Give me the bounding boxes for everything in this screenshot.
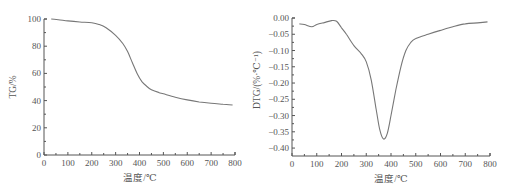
dtg-y-tick-label: −0.20 (268, 78, 289, 88)
tg-x-tick-label: 800 (228, 158, 242, 168)
tg-x-tick-label: 0 (42, 158, 47, 168)
dtg-y-tick-label: −0.15 (268, 62, 289, 72)
dtg-x-ticks: 0100200300400500600700800 (290, 153, 498, 169)
tg-axis-lines (44, 19, 235, 155)
dtg-y-tick-label: −0.30 (268, 111, 289, 121)
dtg-axis-lines (292, 18, 490, 156)
tg-x-tick-label: 600 (181, 158, 195, 168)
dtg-y-ticks: 0.00−0.05−0.10−0.15−0.20−0.25−0.30−0.35−… (268, 13, 295, 153)
tg-x-tick-label: 500 (157, 158, 171, 168)
tg-x-tick-label: 100 (61, 158, 75, 168)
dtg-y-axis-title: DTG/(%·℃⁻¹) (252, 51, 263, 109)
tg-curve (51, 19, 232, 105)
tg-y-tick-label: 100 (28, 14, 42, 24)
dtg-curve (299, 20, 487, 139)
dtg-x-tick-label: 500 (409, 159, 423, 169)
tg-y-tick-label: 20 (32, 123, 42, 133)
dtg-x-tick-label: 800 (483, 159, 497, 169)
tg-x-tick-label: 300 (109, 158, 123, 168)
dtg-x-tick-label: 700 (459, 159, 473, 169)
dtg-x-tick-label: 0 (290, 159, 295, 169)
tg-y-tick-label: 0 (37, 150, 42, 160)
dtg-y-tick-label: −0.10 (268, 46, 289, 56)
tg-chart: 020406080100 0100200300400500600700800 T… (8, 14, 242, 183)
tg-x-ticks: 0100200300400500600700800 (42, 152, 243, 168)
tg-y-tick-label: 60 (32, 68, 42, 78)
tg-y-axis-title: TG/% (8, 75, 18, 98)
tg-x-axis-title: 温度/℃ (123, 172, 157, 183)
dtg-chart: 0.00−0.05−0.10−0.15−0.20−0.25−0.30−0.35−… (252, 13, 497, 184)
dtg-x-tick-label: 100 (310, 159, 324, 169)
dtg-x-tick-label: 200 (335, 159, 349, 169)
tg-y-tick-label: 80 (32, 41, 42, 51)
dtg-y-tick-label: −0.35 (268, 127, 289, 137)
dtg-axes (292, 18, 490, 156)
tg-x-tick-label: 700 (204, 158, 218, 168)
dtg-y-tick-label: 0.00 (273, 13, 289, 23)
tg-axes (44, 19, 235, 155)
dtg-y-tick-label: −0.40 (268, 143, 289, 153)
dtg-x-tick-label: 300 (360, 159, 374, 169)
dtg-x-axis-title: 温度/℃ (374, 173, 408, 184)
tg-x-tick-label: 200 (85, 158, 99, 168)
tg-y-tick-label: 40 (32, 96, 42, 106)
dtg-y-tick-label: −0.25 (268, 94, 289, 104)
figure: 020406080100 0100200300400500600700800 T… (0, 0, 509, 194)
dtg-x-tick-label: 400 (384, 159, 398, 169)
tg-x-tick-label: 400 (133, 158, 147, 168)
dtg-x-tick-label: 600 (434, 159, 448, 169)
dtg-y-tick-label: −0.05 (268, 29, 289, 39)
